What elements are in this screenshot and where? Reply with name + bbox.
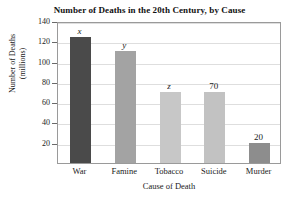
gridline (58, 23, 280, 24)
y-tick-label: 80 (22, 78, 50, 87)
bar (70, 37, 91, 163)
y-tick-label: 140 (22, 17, 50, 26)
x-tick-label: War (54, 166, 104, 176)
gridline (58, 43, 280, 44)
gridline (58, 64, 280, 65)
y-tick-label: 100 (22, 58, 50, 67)
bar (204, 92, 225, 163)
bar-value-label: y (104, 40, 144, 50)
y-tick-label: 120 (22, 37, 50, 46)
bar-value-label: 20 (239, 132, 279, 142)
bar-value-label: 70 (194, 81, 234, 91)
bar (160, 92, 181, 163)
chart-title: Number of Deaths in the 20th Century, by… (0, 5, 299, 15)
bar-value-label: z (149, 81, 189, 91)
bar (115, 51, 136, 163)
y-axis-title-line-1: Number of Deaths (8, 9, 18, 119)
chart-figure: Number of Deaths in the 20th Century, by… (0, 0, 299, 205)
y-tick-label: 60 (22, 98, 50, 107)
x-tick-label: Suicide (189, 166, 239, 176)
plot-area (57, 22, 281, 164)
y-tick-label: 40 (22, 118, 50, 127)
x-axis-title: Cause of Death (57, 181, 281, 191)
y-tick-label: 20 (22, 139, 50, 148)
x-tick-label: Tobacco (144, 166, 194, 176)
bar (249, 143, 270, 163)
bar-value-label: x (59, 26, 99, 36)
x-tick-label: Famine (99, 166, 149, 176)
x-tick-label: Murder (234, 166, 284, 176)
